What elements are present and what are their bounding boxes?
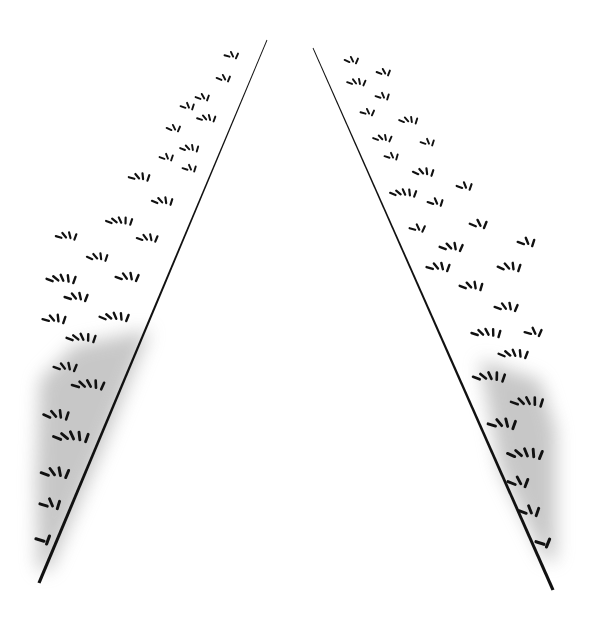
tick-mark — [130, 273, 131, 279]
tick-mark — [513, 263, 514, 269]
tick-mark — [192, 145, 193, 150]
tick-mark — [409, 190, 410, 196]
tick-mark — [209, 115, 210, 120]
tick-mark — [79, 432, 80, 440]
tick-mark — [68, 363, 69, 369]
tick-mark — [58, 315, 59, 321]
tick-mark — [475, 282, 476, 288]
tick-mark — [455, 243, 456, 249]
diagram-figure — [0, 0, 590, 627]
tick-mark — [150, 234, 151, 240]
tick-mark — [533, 449, 534, 457]
tick-mark — [509, 303, 510, 309]
tick-mark — [68, 275, 69, 281]
tick-mark — [142, 173, 143, 179]
tick-mark — [100, 253, 101, 259]
tick-mark — [59, 468, 60, 476]
tick-mark — [441, 263, 443, 269]
tick-mark — [506, 419, 508, 427]
tick-mark — [165, 197, 166, 203]
tick-mark — [359, 79, 360, 84]
tick-mark — [411, 117, 412, 122]
background — [0, 0, 590, 627]
tick-mark — [520, 350, 521, 356]
tick-mark — [69, 232, 70, 238]
tick-mark — [79, 293, 80, 299]
tick-mark — [60, 410, 61, 417]
tick-mark — [121, 313, 122, 319]
tick-mark — [385, 135, 386, 140]
tick-mark — [426, 168, 427, 174]
